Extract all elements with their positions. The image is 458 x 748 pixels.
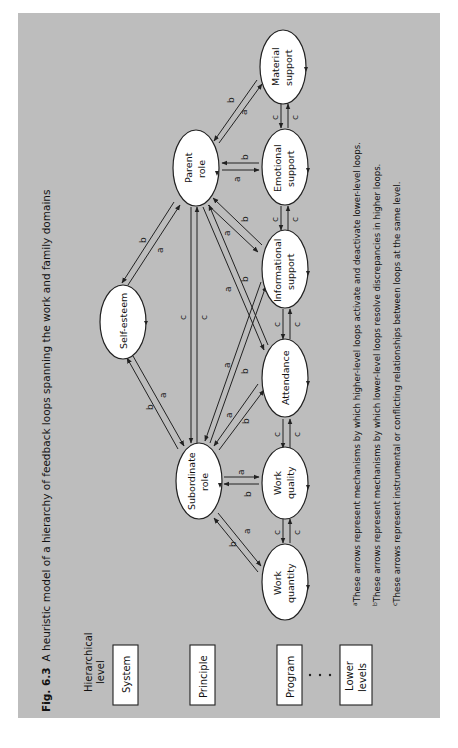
- svg-text:b: b: [240, 368, 250, 374]
- svg-text:Emotional: Emotional: [272, 144, 283, 192]
- svg-text:b: b: [240, 154, 250, 160]
- svg-text:Informational: Informational: [272, 239, 283, 302]
- svg-text:c: c: [290, 115, 300, 120]
- svg-text:a: a: [222, 362, 232, 368]
- hierarchy-header: Hierarchical level: [83, 632, 106, 692]
- svg-text:a: a: [224, 412, 234, 418]
- node-material-support: Material support: [260, 30, 306, 104]
- svg-text:Material: Material: [270, 47, 281, 86]
- node-attendance: Attendance: [262, 339, 308, 417]
- footnote-c: cThese arrows represent instrumental or …: [391, 182, 402, 606]
- svg-text:c: c: [272, 432, 282, 437]
- svg-text:c: c: [270, 115, 280, 120]
- svg-text:c: c: [199, 315, 209, 320]
- level-box-system: System: [113, 645, 138, 705]
- svg-text:support: support: [285, 150, 296, 187]
- svg-text:Lower: Lower: [344, 660, 355, 691]
- node-informational-support: Informational support: [262, 230, 308, 308]
- svg-text:Self-esteem: Self-esteem: [118, 293, 129, 349]
- svg-text:c: c: [272, 530, 282, 535]
- svg-text:a: a: [242, 528, 252, 534]
- svg-text:a: a: [232, 176, 242, 182]
- svg-text:levels: levels: [357, 663, 368, 692]
- svg-text:b: b: [226, 97, 236, 103]
- svg-text:a: a: [236, 469, 246, 475]
- svg-text:System: System: [121, 656, 132, 693]
- footnote-a: aThese arrows represent mechanisms by wh…: [351, 142, 362, 606]
- svg-text:Subordinate: Subordinate: [186, 452, 197, 510]
- svg-text:a: a: [158, 392, 168, 398]
- level-box-principle: Principle: [190, 645, 215, 705]
- svg-text:b: b: [228, 541, 238, 547]
- level-box-program: Program: [277, 645, 302, 705]
- level-box-lower-levels: Lower levels: [340, 645, 372, 705]
- svg-text:c: c: [272, 322, 282, 327]
- svg-text:Program: Program: [285, 656, 296, 698]
- svg-text:b: b: [241, 418, 251, 424]
- svg-text:role: role: [196, 160, 207, 178]
- svg-text:c: c: [178, 315, 188, 320]
- svg-text:c: c: [270, 217, 280, 222]
- svg-text:role: role: [199, 473, 210, 491]
- node-work-quality: Work quality: [262, 447, 308, 519]
- svg-text:Hierarchical: Hierarchical: [83, 632, 94, 692]
- ellipsis-dots: [309, 674, 331, 676]
- svg-text:a: a: [239, 109, 249, 115]
- svg-text:support: support: [283, 49, 294, 86]
- svg-text:Attendance: Attendance: [280, 350, 291, 405]
- svg-text:Work: Work: [272, 570, 283, 595]
- node-self-esteem: Self-esteem: [100, 285, 148, 359]
- svg-text:c: c: [292, 322, 302, 327]
- svg-text:b: b: [240, 276, 250, 282]
- node-work-quantity: Work quantity: [262, 544, 308, 620]
- node-emotional-support: Emotional support: [262, 129, 308, 205]
- svg-text:a: a: [155, 247, 165, 253]
- svg-text:c: c: [292, 432, 302, 437]
- svg-text:support: support: [285, 253, 296, 290]
- svg-text:Parent: Parent: [183, 152, 194, 183]
- footnote-b: bThese arrows represent mechanisms by wh…: [371, 164, 382, 606]
- svg-text:c: c: [290, 217, 300, 222]
- svg-text:a: a: [222, 230, 232, 236]
- svg-text:Principle: Principle: [198, 655, 209, 698]
- svg-text:level: level: [95, 660, 106, 684]
- node-parent-role: Parent role: [173, 130, 219, 206]
- feedback-loop-diagram: Fig. 6.3A heuristic model of a hierarchy…: [0, 0, 458, 748]
- svg-text:a: a: [223, 286, 233, 292]
- svg-text:quality: quality: [285, 466, 296, 499]
- svg-text:quantity: quantity: [285, 563, 296, 603]
- svg-text:c: c: [292, 530, 302, 535]
- svg-text:b: b: [243, 491, 253, 497]
- svg-text:Work: Work: [272, 470, 283, 495]
- footnotes: aThese arrows represent mechanisms by wh…: [351, 142, 402, 606]
- svg-text:b: b: [240, 216, 250, 222]
- node-subordinate-role: Subordinate role: [176, 443, 222, 519]
- svg-text:b: b: [138, 237, 148, 243]
- figure-title: Fig. 6.3A heuristic model of a hierarchy…: [40, 190, 52, 712]
- svg-text:b: b: [145, 404, 155, 410]
